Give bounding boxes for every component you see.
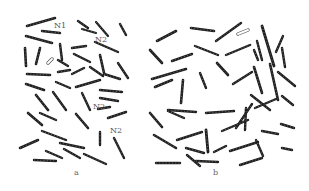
unstained-chromosome bbox=[48, 59, 52, 63]
chromosome bbox=[217, 63, 228, 75]
chromosome bbox=[150, 113, 162, 127]
chromosome bbox=[155, 80, 172, 87]
chromosome bbox=[254, 50, 258, 60]
chromosome bbox=[262, 131, 278, 134]
chromosome bbox=[96, 22, 108, 36]
chromosome-figure bbox=[0, 0, 309, 191]
chromosome bbox=[36, 48, 40, 64]
chromosome bbox=[152, 69, 186, 79]
chromosome bbox=[76, 114, 88, 128]
chromosome bbox=[40, 113, 56, 120]
chromosome bbox=[104, 74, 120, 79]
chromosome bbox=[82, 93, 90, 110]
chromosome bbox=[270, 64, 278, 100]
chromosome bbox=[25, 48, 26, 66]
chromosome bbox=[28, 113, 42, 125]
chromosome bbox=[150, 50, 162, 63]
chromosome-band bbox=[26, 36, 52, 43]
chromosome-band bbox=[254, 67, 262, 93]
panel-label-b: b bbox=[213, 169, 218, 177]
chromosome bbox=[118, 63, 128, 78]
chromosome bbox=[100, 98, 118, 101]
chromosome bbox=[46, 151, 62, 158]
chromosome bbox=[100, 55, 104, 73]
chromosome bbox=[74, 54, 90, 62]
chromosome bbox=[42, 31, 60, 33]
chromosome bbox=[120, 24, 126, 35]
annotation-n1: N1 bbox=[54, 22, 66, 30]
chromosome bbox=[230, 142, 258, 151]
annotation-n2: N2 bbox=[95, 36, 107, 44]
chromosome bbox=[256, 140, 263, 156]
annotation-n2: N2 bbox=[93, 103, 105, 111]
chromosome bbox=[282, 148, 292, 150]
panel-label-a: a bbox=[74, 169, 79, 177]
chromosome bbox=[206, 111, 234, 113]
chromosome bbox=[64, 149, 80, 158]
annotation-n2: N2 bbox=[110, 127, 122, 135]
chromosome-spread bbox=[20, 18, 295, 166]
chromosome bbox=[186, 148, 204, 153]
chromosome bbox=[27, 18, 55, 26]
